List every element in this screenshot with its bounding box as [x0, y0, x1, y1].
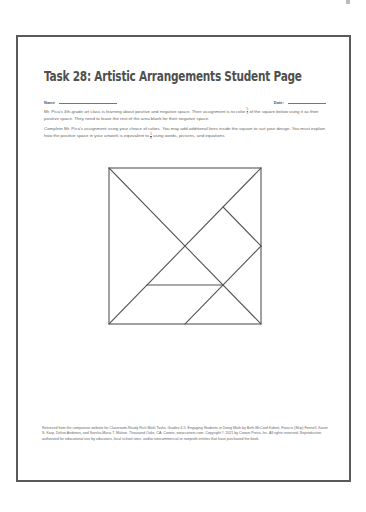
date-group: Date:: [274, 100, 326, 105]
tangram-square-diagram: [108, 167, 262, 325]
date-label: Date:: [274, 100, 284, 105]
instructions-text-end: using words, pictures, and equations.: [152, 133, 226, 138]
intro-text-start: Mr. Pica's 4th-grade art class is learni…: [44, 109, 247, 114]
student-page: Task 28: Artistic Arrangements Student P…: [16, 35, 351, 482]
intro-paragraph: Mr. Pica's 4th-grade art class is learni…: [44, 108, 334, 123]
name-field[interactable]: [59, 103, 117, 104]
date-field[interactable]: [288, 103, 326, 104]
square-piece-edge: [223, 207, 261, 246]
instructions-paragraph: Complete Mr. Pica's assignment using you…: [44, 125, 334, 140]
name-date-row: Name Date:: [44, 100, 326, 108]
page-title: Task 28: Artistic Arrangements Student P…: [44, 68, 302, 84]
name-label: Name: [44, 100, 55, 105]
page-corner-mark: [346, 0, 350, 4]
copyright-footer: Retrieved from the companion website for…: [42, 426, 332, 442]
